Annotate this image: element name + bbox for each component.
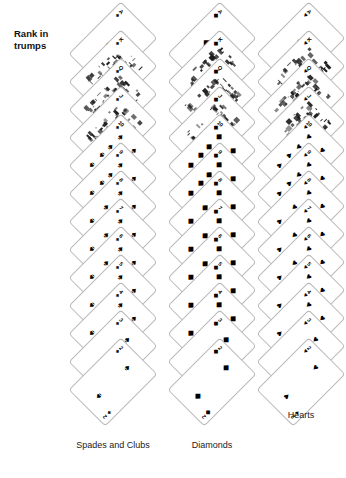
column-label-spades: Spades and Clubs bbox=[68, 440, 158, 450]
suit-icon: ◆ bbox=[192, 390, 203, 401]
suit-icon: ♠ bbox=[115, 188, 125, 198]
suit-icon: ♥ bbox=[303, 244, 313, 254]
suit-icon: ♥ bbox=[282, 391, 292, 401]
suit-icon: ♠ bbox=[122, 363, 132, 373]
suit-icon: ◆ bbox=[214, 272, 225, 283]
suit-icon: ♠ bbox=[94, 391, 104, 401]
suit-icon: ♥ bbox=[303, 216, 313, 226]
suit-icon: ♠ bbox=[115, 272, 125, 282]
column-spades-and-clubs: A♠A♠♠K♠K♠Q♠Q♠J♠J♠10♠10♠♠♠♠♠♠♠♠♠♠♠9♠9♠♠♠♠… bbox=[68, 0, 158, 430]
suit-icon: ◆ bbox=[214, 160, 225, 171]
suit-icon: ♠ bbox=[115, 132, 125, 142]
column-label-diamonds: Diamonds bbox=[167, 440, 257, 450]
suit-icon: ♥ bbox=[303, 132, 313, 142]
suit-icon: ◆ bbox=[214, 132, 225, 143]
suit-icon: ◆ bbox=[214, 188, 225, 199]
column-label-hearts: Hearts bbox=[256, 410, 346, 420]
column-hearts: A♥A♥♥K♥K♥Q♥Q♥J♥J♥10♥10♥♥♥♥♥♥♥♥♥♥♥9♥9♥♥♥♥… bbox=[256, 0, 346, 430]
suit-icon: ♥ bbox=[310, 363, 320, 373]
suit-icon: ♠ bbox=[115, 216, 125, 226]
suit-icon: ◆ bbox=[220, 362, 231, 373]
suit-icon: ♠ bbox=[115, 300, 125, 310]
suit-icon: ♥ bbox=[303, 272, 313, 282]
suit-icon: ◆ bbox=[214, 300, 225, 311]
suit-icon: ◆ bbox=[214, 244, 225, 255]
suit-icon: ♥ bbox=[303, 300, 313, 310]
suit-icon: ♠ bbox=[115, 160, 125, 170]
column-diamonds: A◆A◆◆K◆K◆Q◆Q◆J◆J◆10◆10◆◆◆◆◆◆◆◆◆◆◆9◆9◆◆◆◆… bbox=[167, 0, 257, 430]
suit-icon: ♥ bbox=[303, 188, 313, 198]
suit-icon: ♥ bbox=[303, 160, 313, 170]
suit-icon: ◆ bbox=[214, 216, 225, 227]
suit-icon: ♠ bbox=[115, 244, 125, 254]
